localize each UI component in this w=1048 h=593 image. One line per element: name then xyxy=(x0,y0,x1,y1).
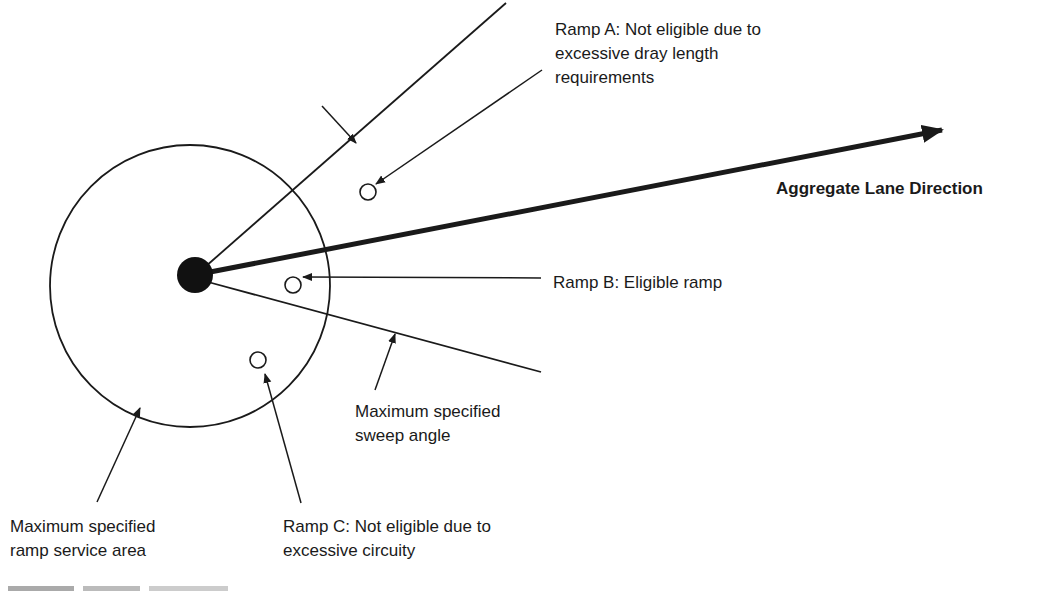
service-area-line-2: ramp service area xyxy=(10,539,156,563)
sweep-line-upper xyxy=(205,3,506,267)
pointer-ramp-c xyxy=(265,374,301,503)
pointer-sweep-lower xyxy=(375,334,395,390)
ramp-a-label: Ramp A: Not eligible due to excessive dr… xyxy=(555,18,761,90)
service-area-label: Maximum specified ramp service area xyxy=(10,515,156,563)
ramp-b-marker xyxy=(285,277,301,293)
pointer-sweep-upper xyxy=(322,106,356,143)
pointer-ramp-a xyxy=(376,70,542,184)
aggregate-lane-label: Aggregate Lane Direction xyxy=(776,177,983,201)
ramp-a-line-3: requirements xyxy=(555,66,761,90)
origin-dot xyxy=(177,257,213,293)
ramp-a-marker xyxy=(360,184,376,200)
ramp-b-label: Ramp B: Eligible ramp xyxy=(553,271,722,295)
aggregate-lane-arrow xyxy=(205,130,942,273)
ramp-selection-diagram xyxy=(0,0,1048,593)
cropped-caption-remnant xyxy=(8,586,228,591)
sweep-angle-line-2: sweep angle xyxy=(355,424,501,448)
ramp-c-label: Ramp C: Not eligible due to excessive ci… xyxy=(283,515,491,563)
ramp-a-line-1: Ramp A: Not eligible due to xyxy=(555,18,761,42)
ramp-c-line-2: excessive circuity xyxy=(283,539,491,563)
ramp-a-line-2: excessive dray length xyxy=(555,42,761,66)
sweep-angle-label: Maximum specified sweep angle xyxy=(355,400,501,448)
ramp-c-line-1: Ramp C: Not eligible due to xyxy=(283,515,491,539)
pointer-service-area xyxy=(97,408,140,502)
ramp-c-marker xyxy=(250,352,266,368)
pointer-ramp-b xyxy=(303,277,541,278)
sweep-angle-line-1: Maximum specified xyxy=(355,400,501,424)
service-area-line-1: Maximum specified xyxy=(10,515,156,539)
